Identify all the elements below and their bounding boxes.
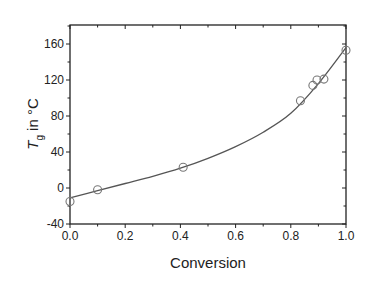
- plot-border: [70, 25, 346, 224]
- y-tick-labels: -4004080120160: [44, 37, 64, 231]
- x-tick-label: 0.2: [117, 229, 134, 243]
- y-tick-label: 80: [51, 109, 65, 123]
- x-tick-label: 1.0: [338, 229, 355, 243]
- x-tick-label: 0.6: [227, 229, 244, 243]
- y-tick-label: 160: [44, 37, 64, 51]
- axis-ticks: [66, 25, 346, 228]
- y-tick-label: -40: [47, 217, 65, 231]
- y-tick-label: 40: [51, 145, 65, 159]
- x-tick-label: 0.8: [282, 229, 299, 243]
- fit-curve: [70, 48, 346, 198]
- data-points: [66, 46, 350, 205]
- y-axis-title: Tg in °C: [24, 98, 45, 150]
- tg-vs-conversion-chart: 0.00.20.40.60.81.0 -4004080120160 Conver…: [0, 0, 370, 283]
- fit-line: [70, 48, 346, 198]
- plot-frame: [70, 25, 346, 224]
- y-tick-label: 120: [44, 73, 64, 87]
- x-tick-labels: 0.00.20.40.60.81.0: [62, 229, 355, 243]
- y-tick-label: 0: [57, 181, 64, 195]
- x-tick-label: 0.4: [172, 229, 189, 243]
- x-axis-title: Conversion: [170, 254, 246, 271]
- data-point-circle: [309, 81, 317, 89]
- x-tick-label: 0.0: [62, 229, 79, 243]
